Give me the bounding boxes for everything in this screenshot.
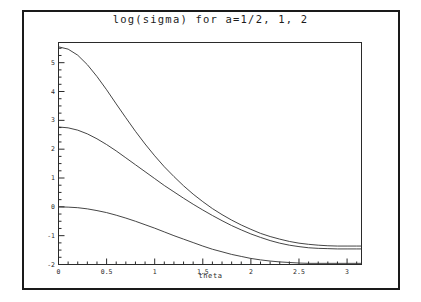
y-tick-label: 2 [42, 145, 55, 153]
y-tick-label: 5 [42, 59, 55, 67]
series-line-1 [59, 127, 362, 249]
data-series-group [59, 47, 362, 264]
y-tick-label: 0 [42, 203, 55, 211]
x-axis-label: theta [0, 272, 421, 280]
y-tick-label: -2 [42, 261, 55, 269]
y-tick-label: 3 [42, 116, 55, 124]
plot-area [58, 42, 362, 265]
y-tick-label: 4 [42, 88, 55, 96]
series-line-0 [59, 47, 362, 246]
y-tick-label: 1 [42, 174, 55, 182]
plot-frame [59, 43, 362, 265]
plot-canvas [58, 42, 362, 265]
y-tick-label: -1 [42, 232, 55, 240]
chart-title: log(sigma) for a=1/2, 1, 2 [0, 13, 421, 25]
series-line-2 [59, 207, 362, 264]
chart-screenshot: log(sigma) for a=1/2, 1, 2 00.511.522.53… [0, 0, 421, 302]
